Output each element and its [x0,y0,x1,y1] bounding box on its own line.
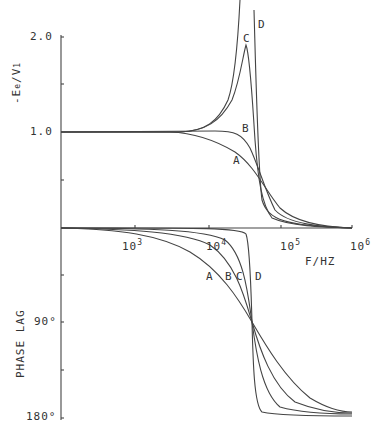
curve-top-C [61,45,352,228]
top-y-axis-label: -Ee/V1 [10,62,23,104]
curve-label-bottom-A: A [206,270,214,283]
phase-axis-label: PHASE LAG [14,309,27,378]
curve-label-top-A: A [233,154,241,167]
x-tick-label-5: 105 [280,240,301,253]
phase-tick-label-90: 90° [34,315,57,328]
curve-label-bottom-D: D [255,270,263,283]
curve-top-D-left [61,0,240,132]
y-tick-label-1: 1.0 [30,125,53,138]
curve-top-B [61,131,352,228]
x-axis-label: F/HZ [305,255,336,268]
x-tick-label-3: 103 [122,240,143,253]
curve-label-top-D: D [258,18,266,31]
curve-label-top-B: B [242,122,250,135]
curve-label-bottom-C: C [236,270,244,283]
phase-tick-label-180: 180° [26,410,57,423]
x-tick-label-6: 106 [350,240,371,253]
curve-top-A [61,132,352,228]
frequency-response-chart [0,0,385,433]
y-tick-label-2: 2.0 [30,30,53,43]
curve-label-top-C: C [243,32,251,45]
curve-label-bottom-B: B [225,270,233,283]
x-tick-label-4: 104 [206,240,227,253]
